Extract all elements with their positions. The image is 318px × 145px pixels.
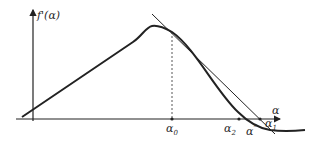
point-alpha1-marker [258,117,261,120]
x-axis-label: α [272,104,280,117]
alpha-star-label: α* [246,123,257,138]
point-alpha2-marker [237,117,240,120]
diagram-canvas: f'(α) α α0 α2 α* α1 [0,0,318,145]
point-alpha0-marker [170,117,173,120]
alpha0-label: α0 [166,122,178,137]
alpha2-label: α2 [224,122,236,137]
y-axis-label: f'(α) [36,9,60,22]
function-curve [22,26,305,131]
